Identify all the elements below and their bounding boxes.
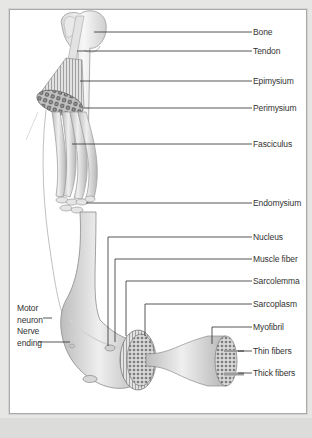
label-motor-neuron: Motor neuron	[17, 303, 43, 325]
label-fasciculus: Fasciculus	[253, 139, 292, 149]
label-perimysium: Perimysium	[253, 103, 296, 113]
label-endomysium: Endomysium	[253, 198, 301, 208]
label-nerve-ending: Nerve ending	[17, 326, 42, 348]
label-nucleus: Nucleus	[253, 232, 283, 242]
label-epimysium: Epimysium	[253, 76, 294, 86]
label-nerve-ending-line1: Nerve	[17, 326, 42, 336]
label-motor-neuron-line2: neuron	[17, 315, 43, 325]
label-bone: Bone	[253, 27, 272, 37]
label-thick-fibers: Thick fibers	[253, 368, 295, 378]
label-thin-fibers: Thin fibers	[253, 346, 292, 356]
label-muscle-fiber: Muscle fiber	[253, 254, 298, 264]
label-tendon: Tendon	[253, 46, 280, 56]
label-sarcolemma: Sarcolemma	[253, 276, 300, 286]
label-motor-neuron-line1: Motor	[17, 303, 43, 313]
label-sarcoplasm: Sarcoplasm	[253, 299, 297, 309]
label-nerve-ending-line2: ending	[17, 338, 42, 348]
label-myofibril: Myofibril	[253, 322, 284, 332]
